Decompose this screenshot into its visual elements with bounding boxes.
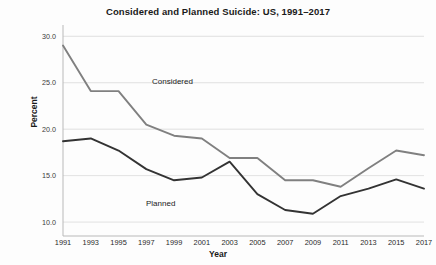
y-tick-label: 15.0 (22, 171, 56, 180)
y-tick-label: 20.0 (22, 125, 56, 134)
series-label-planned: Planned (146, 199, 175, 208)
x-tick-label: 1993 (76, 238, 106, 247)
x-tick-label: 1997 (131, 238, 161, 247)
y-tick-label: 30.0 (22, 32, 56, 41)
plot-area (0, 0, 436, 265)
x-tick-label: 2017 (409, 238, 436, 247)
x-tick-label: 2003 (215, 238, 245, 247)
x-tick-label: 2013 (353, 238, 383, 247)
series-line-planned (63, 138, 424, 213)
x-tick-label: 1999 (159, 238, 189, 247)
x-tick-label: 2005 (242, 238, 272, 247)
series-line-considered (63, 46, 424, 187)
chart-container: Considered and Planned Suicide: US, 1991… (0, 0, 436, 265)
x-tick-label: 2009 (298, 238, 328, 247)
x-tick-label: 2011 (326, 238, 356, 247)
y-tick-label: 10.0 (22, 218, 56, 227)
x-tick-label: 2001 (187, 238, 217, 247)
x-tick-label: 1991 (48, 238, 78, 247)
y-tick-label: 25.0 (22, 78, 56, 87)
x-tick-label: 1995 (104, 238, 134, 247)
x-tick-label: 2015 (381, 238, 411, 247)
x-tick-label: 2007 (270, 238, 300, 247)
series-label-considered: Considered (152, 77, 193, 86)
